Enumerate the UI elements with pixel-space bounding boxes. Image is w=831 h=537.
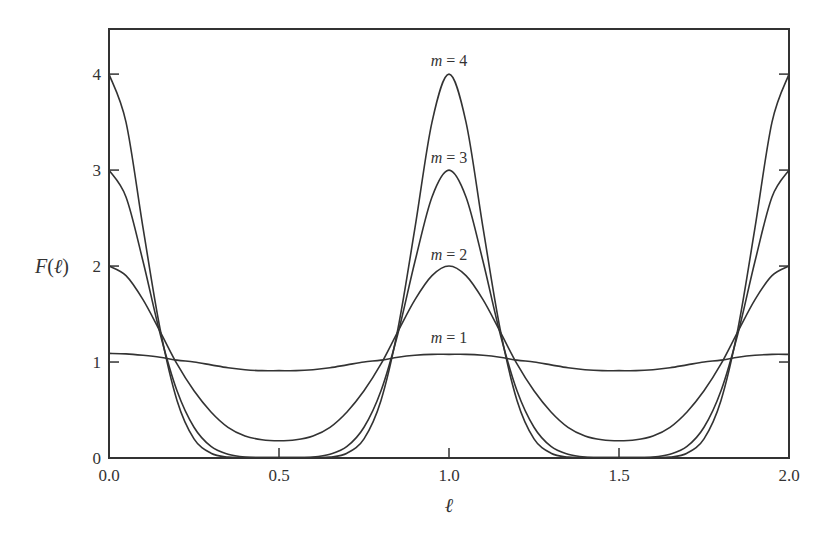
line-chart: 0.00.51.01.52.001234 m = 4m = 3m = 2m = … (0, 0, 831, 537)
curve-m2 (109, 266, 789, 441)
x-tick-label: 2.0 (778, 466, 799, 485)
y-tick-label: 4 (93, 65, 102, 84)
curve-label: m = 2 (431, 246, 468, 263)
curve-label: m = 1 (431, 329, 468, 346)
x-tick-label: 1.5 (608, 466, 629, 485)
curve-label: m = 3 (431, 149, 468, 166)
curve-label: m = 4 (431, 52, 468, 69)
x-tick-label: 1.0 (438, 466, 459, 485)
y-tick-label: 2 (93, 257, 102, 276)
y-tick-label: 3 (93, 161, 102, 180)
x-axis-label: ℓ (445, 494, 454, 516)
labels: m = 4m = 3m = 2m = 1F(ℓ)ℓ (34, 52, 467, 516)
y-axis-label: F(ℓ) (34, 255, 69, 278)
x-tick-label: 0.0 (98, 466, 119, 485)
plot-border (109, 29, 789, 458)
curve-m1 (109, 353, 789, 370)
y-tick-label: 0 (93, 449, 102, 468)
curves (109, 74, 789, 457)
y-tick-label: 1 (93, 353, 102, 372)
x-tick-label: 0.5 (268, 466, 289, 485)
curve-m3 (109, 170, 789, 457)
